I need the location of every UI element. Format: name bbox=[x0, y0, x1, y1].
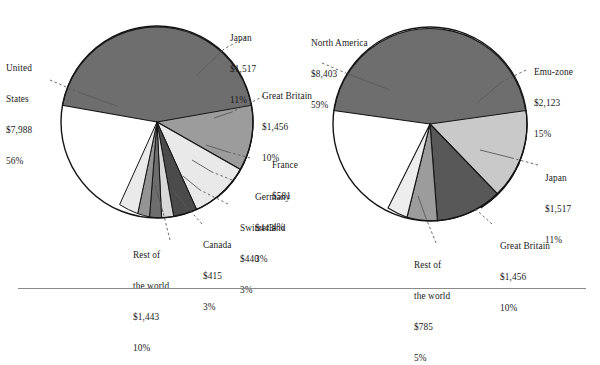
label-north-america: North America $8,403 59% bbox=[311, 17, 368, 131]
label-north-america-percent: 59% bbox=[311, 100, 368, 110]
label-great-britain-right-percent: 10% bbox=[500, 303, 550, 313]
label-emu-zone-name: Emu-zone bbox=[534, 67, 573, 77]
label-united-states: United States $7,988 56% bbox=[6, 42, 32, 188]
label-japan-left-name: Japan bbox=[230, 33, 256, 43]
label-switzerland-name: Switzerland bbox=[240, 223, 286, 233]
label-great-britain-right-value: $1,456 bbox=[500, 272, 550, 282]
label-canada-name: Canada bbox=[203, 240, 231, 250]
bottom-divider-rule bbox=[18, 288, 586, 289]
label-canada-percent: 3% bbox=[203, 302, 231, 312]
label-rest-of-the-world-right-value: $785 bbox=[414, 322, 450, 332]
label-united-states-value: $7,988 bbox=[6, 125, 32, 135]
label-canada: Canada $415 3% bbox=[203, 219, 231, 333]
label-north-america-value: $8,403 bbox=[311, 69, 368, 79]
label-germany-name: Germany bbox=[255, 192, 290, 202]
label-switzerland-percent: 3% bbox=[240, 285, 286, 295]
label-japan-left: Japan $1,517 11% bbox=[230, 12, 256, 126]
label-japan-left-value: $1,517 bbox=[230, 64, 256, 74]
label-canada-value: $415 bbox=[203, 271, 231, 281]
label-north-america-name: North America bbox=[311, 38, 368, 48]
label-great-britain-left-name: Great Britain bbox=[262, 91, 312, 101]
label-great-britain-left-value: $1,456 bbox=[262, 122, 312, 132]
label-rest-of-the-world-left-line1: Rest of bbox=[133, 250, 169, 260]
label-rest-of-the-world-left-percent: 10% bbox=[133, 343, 169, 353]
label-switzerland: Switzerland $440 3% bbox=[240, 202, 286, 316]
label-united-states-line1: United bbox=[6, 63, 32, 73]
label-rest-of-the-world-left-line2: the world bbox=[133, 281, 169, 291]
label-japan-right-value: $1,517 bbox=[545, 204, 571, 214]
label-rest-of-the-world-right-line1: Rest of bbox=[414, 260, 450, 270]
label-great-britain-right-name: Great Britain bbox=[500, 241, 550, 251]
label-japan-right-name: Japan bbox=[545, 173, 571, 183]
label-emu-zone-value: $2,123 bbox=[534, 98, 573, 108]
label-japan-left-percent: 11% bbox=[230, 95, 256, 105]
label-emu-zone-percent: 15% bbox=[534, 129, 573, 139]
label-france-name: France bbox=[272, 160, 298, 170]
label-great-britain-right: Great Britain $1,456 10% bbox=[500, 220, 550, 334]
label-rest-of-the-world-right-percent: 5% bbox=[414, 353, 450, 363]
label-rest-of-the-world-left-value: $1,443 bbox=[133, 312, 169, 322]
label-united-states-percent: 56% bbox=[6, 156, 32, 166]
label-emu-zone: Emu-zone $2,123 15% bbox=[534, 46, 573, 160]
label-united-states-line2: States bbox=[6, 94, 32, 104]
label-rest-of-the-world-left: Rest of the world $1,443 10% bbox=[133, 229, 169, 365]
label-rest-of-the-world-right: Rest of the world $785 5% bbox=[414, 239, 450, 365]
label-switzerland-value: $440 bbox=[240, 254, 286, 264]
left-pie-group bbox=[61, 26, 253, 218]
label-rest-of-the-world-right-line2: the world bbox=[414, 291, 450, 301]
